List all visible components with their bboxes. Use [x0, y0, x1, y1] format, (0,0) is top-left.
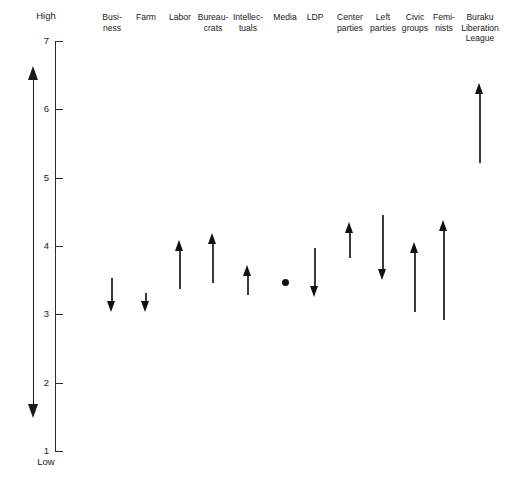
- y-tick-mark: [55, 178, 63, 179]
- axis-high-caption: High: [26, 10, 66, 21]
- data-point-media: [282, 279, 289, 286]
- arrow-shaft-business: [111, 278, 112, 302]
- y-tick-mark: [55, 314, 63, 315]
- arrow-shaft-labor: [179, 250, 180, 289]
- y-tick-label: 1: [31, 445, 49, 456]
- arrow-shaft-intellectuals: [247, 275, 248, 295]
- arrow-shaft-feminists: [443, 230, 444, 320]
- y-tick-mark: [55, 109, 63, 110]
- y-tick-mark: [55, 451, 63, 452]
- arrow-head-up-center-parties: [345, 222, 353, 233]
- arrow-head-up-bureaucrats: [208, 233, 216, 244]
- influence-scale-chart: Scale of influence High Low 1234567 Busi…: [0, 0, 510, 482]
- arrow-head-up-buraku-liberation-league: [475, 83, 483, 94]
- axis-low-caption: Low: [26, 456, 66, 467]
- arrow-shaft-bureaucrats: [212, 243, 213, 283]
- arrow-head-down-ldp: [310, 286, 318, 297]
- axis-arrow-shaft: [33, 78, 34, 410]
- arrow-head-up-feminists: [439, 220, 447, 231]
- arrow-shaft-buraku-liberation-league: [479, 93, 480, 163]
- arrow-head-up-labor: [175, 240, 183, 251]
- arrow-shaft-center-parties: [349, 232, 350, 258]
- arrow-shaft-civic-groups: [414, 252, 415, 312]
- y-tick-mark: [55, 246, 63, 247]
- axis-arrow-down-icon: [28, 404, 38, 418]
- category-label-buraku-liberation-league: Buraku Liberation League: [452, 12, 508, 44]
- arrow-shaft-left-parties: [382, 215, 383, 270]
- arrow-head-down-business: [107, 301, 115, 312]
- arrow-head-up-civic-groups: [410, 242, 418, 253]
- arrow-head-up-intellectuals: [243, 265, 251, 276]
- y-tick-mark: [55, 41, 63, 42]
- y-tick-mark: [55, 383, 63, 384]
- arrow-head-down-left-parties: [378, 269, 386, 280]
- arrow-shaft-ldp: [314, 248, 315, 287]
- arrow-head-down-farm: [141, 301, 149, 312]
- y-tick-label: 7: [31, 35, 49, 46]
